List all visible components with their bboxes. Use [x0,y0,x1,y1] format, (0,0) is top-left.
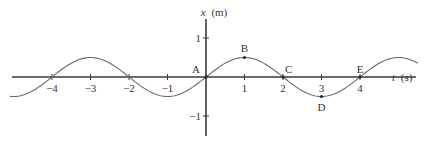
point-label-a: A [192,63,200,75]
point-label-b: B [241,42,248,54]
y-tick-label: −1 [189,110,201,122]
x-axis-unit: (s) [401,71,413,84]
x-tick-label: −3 [85,82,97,94]
point-c [281,75,284,78]
y-tick-label: 1 [196,32,202,44]
x-tick-label: 2 [280,82,286,94]
point-e [358,75,361,78]
y-axis-label: x (m) [200,6,228,19]
axis-labels: x (m) t (s) [200,6,413,84]
x-axis-label: t (s) [392,71,413,84]
point-b [243,56,246,59]
x-tick-label: −1 [162,82,174,94]
x-tick-label: −4 [46,82,58,94]
x-tick-label: −2 [123,82,135,94]
x-tick-label: 3 [319,82,325,94]
y-axis-unit: (m) [211,6,227,19]
point-label-c: C [285,63,292,75]
point-label-e: E [357,63,364,75]
x-tick-label: 4 [357,82,363,94]
x-tick-label: 1 [242,82,248,94]
axes [12,19,416,136]
point-label-d: D [318,101,326,113]
point-d [320,95,323,98]
chart: −4−3−2−112341−1 ABCDE x (m) t (s) [0,0,427,141]
x-axis-var: t [392,71,396,83]
y-axis-var: x [200,6,206,18]
point-a [204,75,207,78]
